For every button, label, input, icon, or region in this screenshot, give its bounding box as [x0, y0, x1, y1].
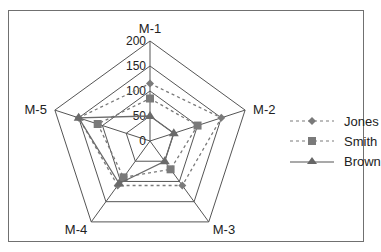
legend-label: Smith: [344, 134, 377, 149]
square-marker-icon: [167, 165, 175, 173]
radial-tick-label: 150: [126, 59, 146, 73]
triangle-marker-icon: [160, 156, 170, 164]
legend-label: Jones: [344, 114, 379, 129]
series-line-smith: [98, 99, 198, 178]
diamond-marker-icon: [290, 115, 334, 127]
category-label: M-2: [253, 102, 275, 117]
diamond-marker-icon: [146, 80, 154, 88]
radial-tick-label: 0: [139, 134, 146, 148]
radial-tick-label: 200: [126, 34, 146, 48]
triangle-marker-icon: [290, 155, 334, 167]
square-marker-icon: [290, 135, 334, 147]
category-label: M-4: [65, 222, 87, 237]
square-marker-icon: [94, 120, 102, 128]
legend: Jones Smith Brown: [290, 111, 381, 171]
square-marker-icon: [194, 122, 202, 130]
legend-item-brown: Brown: [290, 151, 381, 171]
legend-label: Brown: [344, 154, 381, 169]
triangle-marker-icon: [145, 111, 155, 119]
category-label: M-5: [25, 102, 47, 117]
category-label: M-3: [213, 222, 235, 237]
square-marker-icon: [146, 95, 154, 103]
legend-item-jones: Jones: [290, 111, 381, 131]
radial-tick-label: 100: [126, 84, 146, 98]
diamond-marker-icon: [217, 114, 225, 122]
diamond-marker-icon: [178, 181, 186, 189]
legend-item-smith: Smith: [290, 131, 381, 151]
category-label: M-1: [139, 21, 161, 36]
